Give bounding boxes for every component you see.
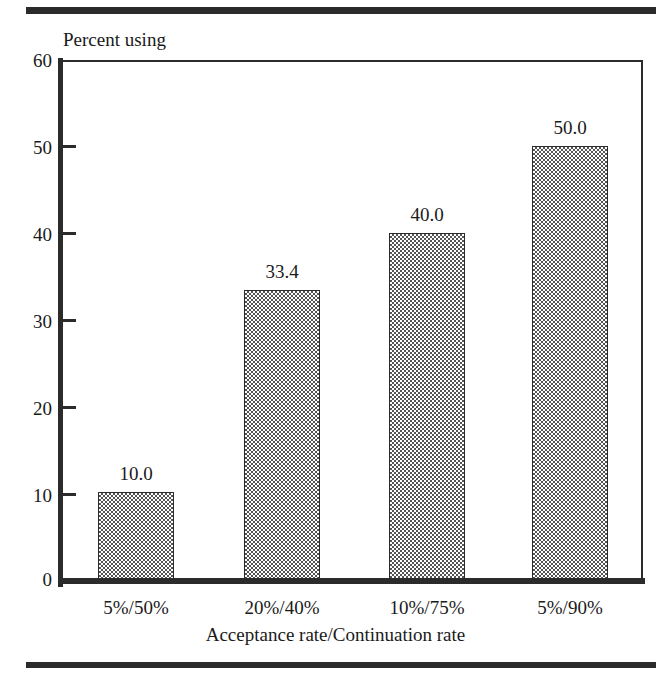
ytick-label-10: 10 xyxy=(6,486,52,505)
bar-1 xyxy=(244,290,320,579)
ytick-mark-20 xyxy=(63,406,76,409)
xtick-label-3: 5%/90% xyxy=(510,597,630,619)
bar-2 xyxy=(389,233,465,579)
ytick-mark-10 xyxy=(63,493,76,496)
bar-0 xyxy=(98,492,174,579)
ytick-label-60: 60 xyxy=(6,51,52,70)
x-axis-title: Acceptance rate/Continuation rate xyxy=(0,624,671,646)
ytick-mark-40 xyxy=(63,232,76,235)
ytick-label-20: 20 xyxy=(6,399,52,418)
ytick-label-0: 0 xyxy=(6,570,52,589)
bar-value-2: 40.0 xyxy=(389,205,465,224)
ytick-label-50: 50 xyxy=(6,138,52,157)
y-axis-title: Percent using xyxy=(63,29,166,51)
y-axis-spine xyxy=(58,58,63,587)
top-rule xyxy=(26,7,656,14)
bar-chart-figure: Percent using 60 50 40 30 20 10 0 xyxy=(0,0,671,680)
bar-value-1: 33.4 xyxy=(244,262,320,281)
bottom-rule xyxy=(26,662,656,668)
ytick-label-40: 40 xyxy=(6,225,52,244)
ytick-mark-30 xyxy=(63,319,76,322)
xtick-label-0: 5%/50% xyxy=(76,597,196,619)
bar-value-3: 50.0 xyxy=(532,118,608,137)
bar-value-0: 10.0 xyxy=(98,464,174,483)
ytick-label-30: 30 xyxy=(6,312,52,331)
xtick-label-1: 20%/40% xyxy=(222,597,342,619)
bar-3 xyxy=(532,146,608,579)
ytick-mark-50 xyxy=(63,145,76,148)
xtick-label-2: 10%/75% xyxy=(367,597,487,619)
